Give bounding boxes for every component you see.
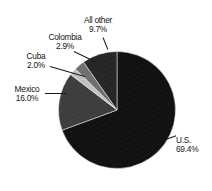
slice-label-us: U.S. 69.4%: [176, 136, 210, 155]
pie-slices: [58, 52, 175, 169]
slice-label-mexico-percent: 16.0%: [4, 94, 50, 103]
slice-label-colombia: Colombia 2.9%: [38, 33, 92, 52]
pie-chart-figure: All other 9.7% Colombia 2.9% Cuba 2.0% M…: [0, 0, 212, 191]
slice-label-mexico: Mexico 16.0%: [4, 85, 50, 104]
pie-svg: [58, 51, 176, 169]
slice-label-cuba-percent: 2.0%: [14, 61, 58, 70]
leader-line-all-other: [103, 37, 109, 49]
slice-label-colombia-percent: 2.9%: [38, 42, 92, 51]
slice-label-us-percent: 69.4%: [176, 145, 210, 154]
pie-chart: [58, 51, 176, 169]
chart-title: [4, 0, 154, 4]
slice-label-cuba: Cuba 2.0%: [14, 52, 58, 71]
